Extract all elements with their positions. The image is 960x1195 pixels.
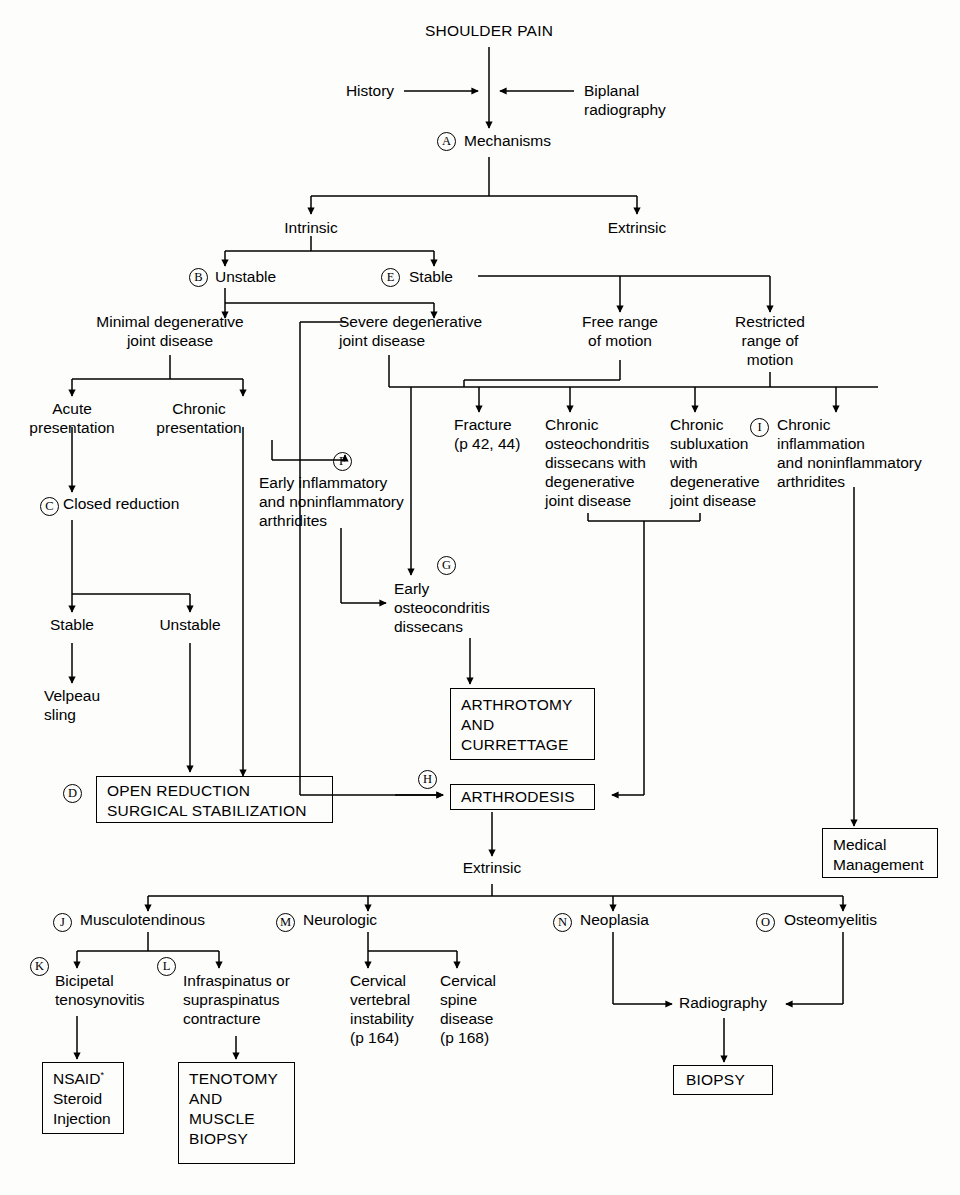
node-neoplasia: Neoplasia <box>580 911 649 930</box>
node-radiography-low: Radiography <box>679 994 767 1013</box>
key-letter-c: C <box>40 497 59 516</box>
box-arthrodesis: ARTHRODESIS <box>450 784 595 810</box>
node-root-shoulder-pain: SHOULDER PAIN <box>425 22 553 41</box>
node-fracture: Fracture (p 42, 44) <box>454 416 520 454</box>
flowchart-canvas: SHOULDER PAIN History Biplanal radiograp… <box>0 0 960 1195</box>
box-arthrotomy-and-currettage: ARTHROTOMY AND CURRETTAGE <box>450 688 595 760</box>
box-nsaid-steroid-injection: NSAID* Steroid Injection <box>42 1062 124 1134</box>
key-letter-a: A <box>437 132 456 151</box>
node-chronic-inflammation-arthridites: Chronic inflammation and noninflammatory… <box>777 416 922 492</box>
node-chronic-presentation: Chronic presentation <box>156 400 241 438</box>
node-infraspinatus-supraspinatus-contracture: Infraspinatus or supraspinatus contractu… <box>183 972 290 1029</box>
key-letter-b: B <box>189 268 208 287</box>
nsaid-label: NSAID <box>53 1070 100 1087</box>
node-acute-presentation: Acute presentation <box>29 400 114 438</box>
node-extrinsic-top: Extrinsic <box>608 219 667 238</box>
key-letter-e: E <box>381 268 400 287</box>
node-musculotendinous: Musculotendinous <box>80 911 205 930</box>
box-medical-management: Medical Management <box>822 828 938 878</box>
key-letter-i: I <box>750 418 769 437</box>
node-early-inflammatory-arthridites: Early inflammatory and noninflammatory a… <box>259 474 404 531</box>
node-mechanisms: Mechanisms <box>464 132 551 151</box>
node-early-osteocondritis-dissecans: Early osteocondritis dissecans <box>394 580 490 637</box>
node-biplanal-radiography: Biplanal radiography <box>584 82 666 120</box>
key-letter-n: N <box>553 913 572 932</box>
node-velpeau-sling: Velpeau sling <box>44 687 100 725</box>
node-closed-reduction: Closed reduction <box>63 495 179 514</box>
node-unstable-low: Unstable <box>159 616 220 635</box>
node-restricted-range-of-motion: Restricted range of motion <box>735 313 805 370</box>
key-letter-d: D <box>63 784 82 803</box>
node-chronic-subluxation-djd: Chronic subluxation with degenerative jo… <box>670 416 760 511</box>
node-unstable-b: Unstable <box>215 268 276 287</box>
key-letter-h: H <box>418 770 437 789</box>
node-neurologic: Neurologic <box>303 911 377 930</box>
nsaid-rest-label: Steroid Injection <box>53 1090 111 1127</box>
nsaid-footnote-marker: * <box>100 1070 104 1080</box>
node-stable-low: Stable <box>50 616 94 635</box>
node-history: History <box>346 82 394 101</box>
key-letter-g: G <box>437 556 456 575</box>
node-free-range-of-motion: Free range of motion <box>582 313 658 351</box>
box-biopsy: BIOPSY <box>673 1065 773 1095</box>
node-bicipetal-tenosynovitis: Bicipetal tenosynovitis <box>55 972 145 1010</box>
node-cervical-vertebral-instability: Cervical vertebral instability (p 164) <box>350 972 414 1048</box>
node-extrinsic-low: Extrinsic <box>463 859 522 878</box>
key-letter-k: K <box>30 957 49 976</box>
node-severe-degenerative-joint-disease: Severe degenerative joint disease <box>339 313 482 351</box>
box-tenotomy-and-muscle-biopsy: TENOTOMY AND MUSCLE BIOPSY <box>178 1062 295 1164</box>
node-intrinsic: Intrinsic <box>284 219 337 238</box>
key-letter-j: J <box>53 913 72 932</box>
key-letter-l: L <box>157 957 176 976</box>
key-letter-m: M <box>276 913 295 932</box>
node-chronic-osteochondritis-dissecans-djd: Chronic osteochondritis dissecans with d… <box>545 416 649 511</box>
key-letter-o: O <box>756 913 775 932</box>
node-minimal-degenerative-joint-disease: Minimal degenerative joint disease <box>96 313 243 351</box>
node-stable-e: Stable <box>409 268 453 287</box>
node-osteomyelitis: Osteomyelitis <box>784 911 877 930</box>
node-cervical-spine-disease: Cervical spine disease (p 168) <box>440 972 496 1048</box>
key-letter-f: F <box>333 452 352 471</box>
box-open-reduction-surgical-stabilization: OPEN REDUCTION SURGICAL STABILIZATION <box>96 776 333 823</box>
